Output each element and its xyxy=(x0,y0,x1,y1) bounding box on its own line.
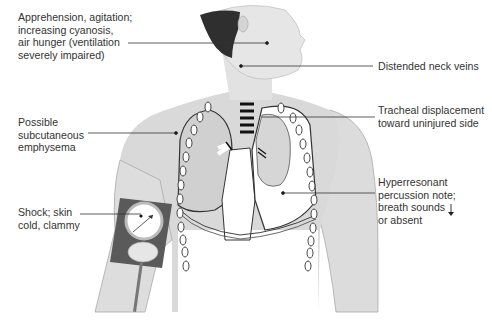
label-apprehension: Apprehension, agitation; increasing cyan… xyxy=(18,11,132,61)
gauge-bulb xyxy=(128,242,158,262)
abdomen xyxy=(178,230,318,312)
label-distended-neck-veins: Distended neck veins xyxy=(378,60,479,73)
label-hyperresonant: Hyperresonant percussion note; breath so… xyxy=(378,176,456,226)
ear xyxy=(238,16,248,32)
label-tracheal-displacement: Tracheal displacement toward uninjured s… xyxy=(378,104,484,129)
pressure-gauge xyxy=(126,203,162,239)
label-shock: Shock; skin cold, clammy xyxy=(18,206,80,231)
label-subcutaneous-emphysema: Possible subcutaneous emphysema xyxy=(18,116,84,154)
tension-pneumothorax-illustration: Apprehension, agitation; increasing cyan… xyxy=(0,0,492,324)
